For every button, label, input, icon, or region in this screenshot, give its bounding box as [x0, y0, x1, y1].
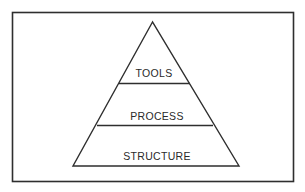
layer-label-structure: STRUCTURE: [123, 150, 190, 162]
pyramid-outline: [73, 22, 239, 166]
pyramid-diagram: TOOLS PROCESS STRUCTURE: [0, 0, 305, 192]
layer-label-tools: TOOLS: [136, 67, 173, 79]
layer-label-process: PROCESS: [130, 110, 183, 122]
